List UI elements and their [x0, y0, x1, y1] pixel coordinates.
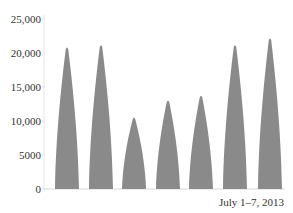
spike-6	[223, 45, 247, 189]
y-tick-label: 0	[36, 183, 42, 195]
y-axis: 0500010,00015,00020,00025,000	[11, 13, 45, 195]
y-tick-label: 25,000	[11, 13, 42, 25]
spike-5	[189, 96, 213, 189]
spike-1	[55, 47, 79, 189]
y-tick-label: 5000	[19, 149, 42, 161]
spike-2	[89, 45, 113, 189]
spike-3	[122, 117, 146, 189]
y-tick-label: 10,000	[11, 115, 42, 127]
spike-7	[258, 39, 282, 189]
y-tick-label: 20,000	[11, 47, 42, 59]
y-tick-label: 15,000	[11, 81, 42, 93]
spike-4	[156, 100, 180, 189]
chart: 0500010,00015,00020,00025,000 July 1–7, …	[0, 0, 293, 213]
data-spikes	[55, 39, 282, 189]
x-axis-label: July 1–7, 2013	[219, 196, 285, 208]
